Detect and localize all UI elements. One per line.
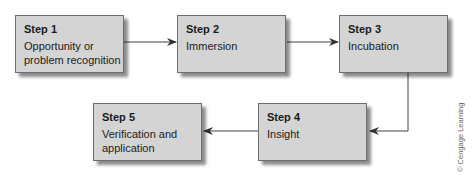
step-5-line-1: Verification and [102,127,201,141]
step-3-description: Incubation [348,39,447,53]
step-3-title: Step 3 [348,23,447,36]
step-2-box: Step 2 Immersion [177,15,286,73]
step-1-title: Step 1 [24,23,123,36]
step-5-title: Step 5 [102,111,201,124]
step-1-line-2: problem recognition [24,53,123,67]
step-2-title: Step 2 [186,23,285,36]
step-1-description: Opportunity or problem recognition [24,39,123,67]
step-4-box: Step 4 Insight [258,103,367,161]
step-2-description: Immersion [186,39,285,53]
step-1-box: Step 1 Opportunity or problem recognitio… [15,15,124,73]
arrow-step3-to-step4 [370,73,408,131]
step-4-description: Insight [267,127,366,141]
step-3-box: Step 3 Incubation [339,15,448,73]
step-5-box: Step 5 Verification and application [93,103,202,161]
step-5-line-2: application [102,141,201,155]
step-4-title: Step 4 [267,111,366,124]
copyright-credit: © Cengage Learning [456,103,465,172]
step-1-line-1: Opportunity or [24,39,123,53]
step-5-description: Verification and application [102,127,201,155]
